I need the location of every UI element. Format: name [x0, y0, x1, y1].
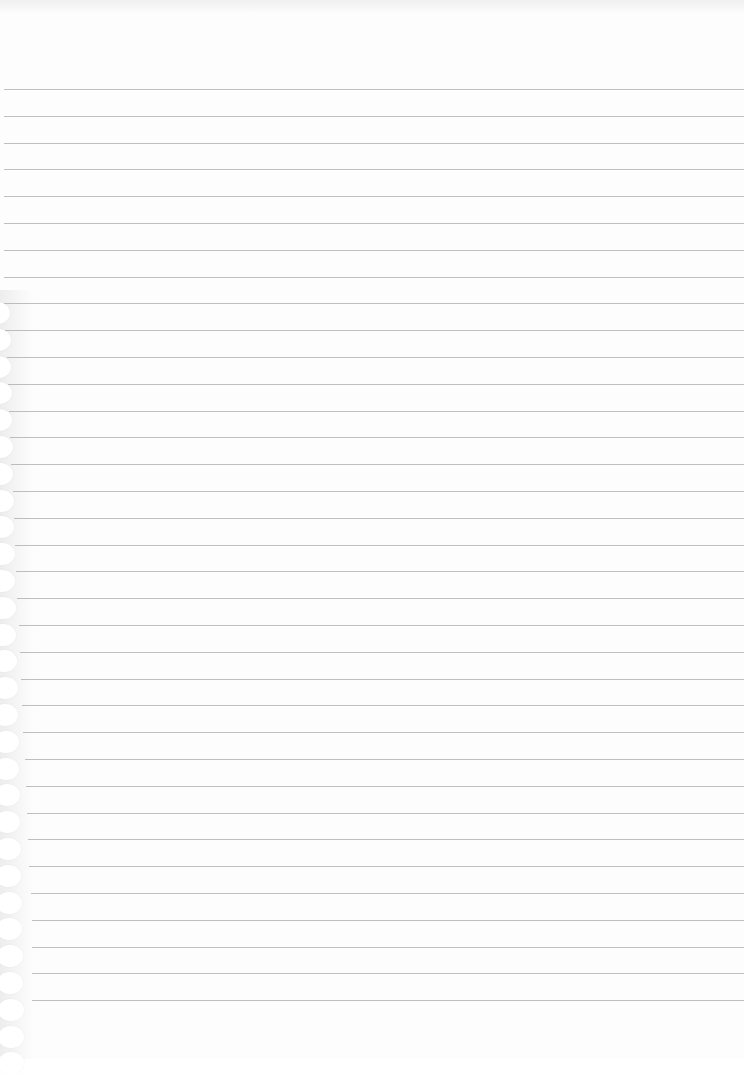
ruled-line: [9, 411, 744, 412]
ruled-line: [26, 786, 744, 787]
binding-hole: [0, 1052, 24, 1074]
ruled-line: [4, 169, 744, 170]
ruled-line: [20, 652, 744, 653]
ruled-line: [4, 196, 744, 197]
ruled-line: [25, 759, 744, 760]
ruled-line: [27, 813, 744, 814]
ruled-line: [16, 571, 744, 572]
ruled-line: [4, 143, 744, 144]
ruled-line: [31, 893, 744, 894]
ruled-line: [32, 920, 744, 921]
ruled-line: [29, 866, 744, 867]
ruled-line: [4, 116, 744, 117]
ruled-line: [28, 839, 744, 840]
ruled-line: [32, 1000, 744, 1001]
top-edge-shadow: [0, 0, 744, 14]
ruled-line: [7, 357, 744, 358]
ruled-line: [4, 89, 744, 90]
ruled-line: [5, 330, 744, 331]
ruled-line: [32, 947, 744, 948]
ruled-line: [21, 679, 744, 680]
ruled-line: [4, 223, 744, 224]
ruled-line: [4, 277, 744, 278]
ruled-line: [4, 303, 744, 304]
ruled-line: [8, 384, 744, 385]
ruled-line: [13, 491, 744, 492]
ruled-line: [17, 598, 744, 599]
binding-edge: [0, 290, 34, 1059]
ruled-line: [32, 973, 744, 974]
ruled-line: [4, 250, 744, 251]
ruled-line: [23, 732, 744, 733]
ruled-line: [14, 518, 744, 519]
ruled-line: [19, 625, 744, 626]
ruled-line: [15, 545, 744, 546]
ruled-line: [22, 705, 744, 706]
ruled-line: [10, 437, 744, 438]
ruled-line: [11, 464, 744, 465]
